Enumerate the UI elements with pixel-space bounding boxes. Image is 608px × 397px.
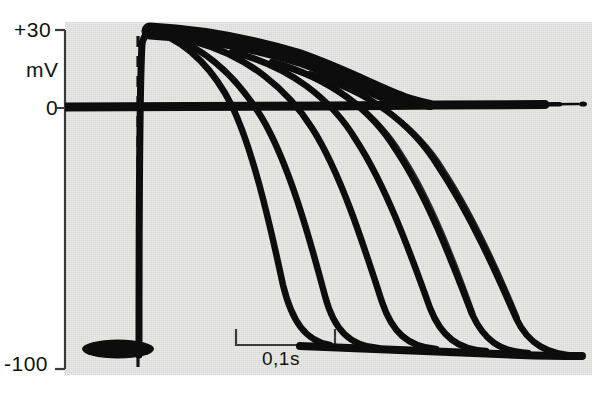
zero-baseline-thin [500,104,578,105]
x-scalebar-label: 0,1s [262,348,300,370]
recorded-traces [65,30,587,372]
y-tick-label-minus100: -100 [4,352,48,376]
baseline-end-dot [579,101,587,106]
y-tick-label-plus30: +30 [14,18,51,42]
action-potential-trace-1 [158,33,330,345]
y-tick-label-zero: 0 [46,96,58,120]
resting-potential-blob [82,340,154,359]
action-potential-trace-3 [196,42,436,349]
upstroke-depolarization [139,30,160,355]
trace-canvas [0,0,608,397]
y-axis-unit-label: mV [26,58,59,82]
figure-root: +30 mV 0 -100 0,1s [0,0,608,397]
